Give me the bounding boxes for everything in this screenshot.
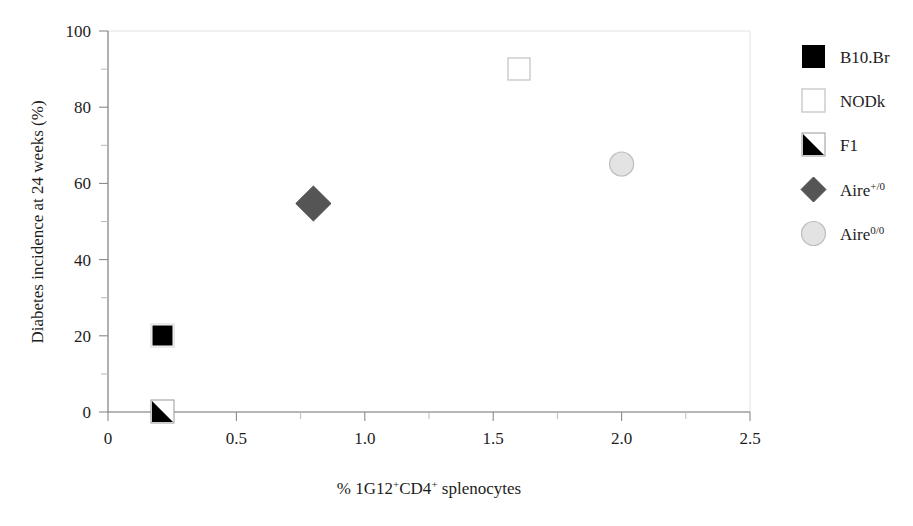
legend-item-nodk[interactable]: NODk — [802, 89, 886, 112]
x-tick-label-0: 0 — [104, 429, 113, 448]
x-axis-title: % 1G12+CD4+ splenocytes — [337, 478, 521, 498]
legend-item-f1[interactable]: F1 — [802, 133, 858, 156]
legend-label-aire-plus-0-base: Aire — [840, 181, 870, 200]
legend: B10.Br NODk F1 Aire+/0 — [801, 45, 890, 246]
legend-item-aire-0-0[interactable]: Aire0/0 — [802, 222, 885, 246]
y-axis-title: Diabetes incidence at 24 weeks (%) — [28, 100, 47, 343]
y-tick-label-60: 60 — [74, 174, 91, 193]
y-tick-label-0: 0 — [83, 403, 92, 422]
legend-label-nodk: NODk — [840, 92, 886, 111]
legend-label-aire-plus-0: Aire+/0 — [840, 180, 885, 200]
figure-container: 100 80 60 40 20 0 0 0.5 1.0 1.5 2.0 2.5 — [0, 0, 913, 526]
scatter-plot: 100 80 60 40 20 0 0 0.5 1.0 1.5 2.0 2.5 — [0, 0, 913, 526]
x-axis-title-mid: CD4 — [399, 479, 432, 498]
data-point-aire-plus-0[interactable] — [296, 186, 331, 221]
y-tick-label-20: 20 — [74, 327, 91, 346]
data-point-nodk[interactable] — [508, 58, 530, 80]
data-point-b10br[interactable] — [151, 324, 174, 347]
y-axis-minor-ticks — [101, 69, 108, 374]
legend-label-aire-0-0-base: Aire — [840, 225, 870, 244]
plot-frame — [108, 31, 750, 412]
x-axis-title-suffix: splenocytes — [438, 479, 522, 498]
x-tick-label-2-5: 2.5 — [739, 429, 760, 448]
legend-marker-gray-diamond — [801, 177, 826, 202]
legend-label-aire-plus-0-sup: +/0 — [870, 180, 885, 192]
legend-marker-open-square — [802, 89, 825, 112]
y-tick-label-100: 100 — [66, 22, 92, 41]
data-point-aire-0-0[interactable] — [610, 152, 634, 176]
y-tick-label-80: 80 — [74, 98, 91, 117]
x-tick-label-1-5: 1.5 — [483, 429, 504, 448]
legend-label-aire-0-0-sup: 0/0 — [870, 224, 885, 236]
x-axis-minor-ticks — [172, 412, 686, 419]
x-tick-label-2-0: 2.0 — [611, 429, 632, 448]
legend-marker-light-circle — [802, 222, 826, 246]
data-point-f1[interactable] — [151, 400, 174, 423]
legend-label-f1: F1 — [840, 136, 858, 155]
x-tick-label-1-0: 1.0 — [354, 429, 375, 448]
legend-marker-filled-square — [802, 45, 825, 68]
x-axis-title-prefix: % 1G12 — [337, 479, 393, 498]
x-tick-label-0-5: 0.5 — [226, 429, 247, 448]
legend-item-b10br[interactable]: B10.Br — [802, 45, 890, 68]
legend-label-aire-0-0: Aire0/0 — [840, 224, 885, 244]
legend-item-aire-plus-0[interactable]: Aire+/0 — [801, 177, 885, 202]
y-tick-label-40: 40 — [74, 251, 91, 270]
legend-label-b10br: B10.Br — [840, 48, 890, 67]
